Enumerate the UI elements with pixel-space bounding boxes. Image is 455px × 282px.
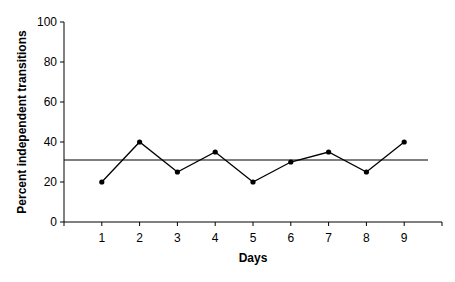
- data-point-marker: [402, 139, 407, 144]
- x-tick-label: 2: [136, 231, 143, 245]
- data-point-marker: [137, 139, 142, 144]
- data-point-marker: [326, 149, 331, 154]
- x-tick-label: 4: [212, 231, 219, 245]
- data-point-marker: [364, 169, 369, 174]
- data-point-marker: [250, 179, 255, 184]
- y-axis-title: Percent independent transitions: [15, 30, 29, 214]
- line-chart: 020406080100 123456789 Percent independe…: [0, 0, 455, 282]
- y-tick-label: 80: [44, 55, 58, 69]
- y-tick-label: 100: [37, 15, 57, 29]
- y-tick-label: 0: [50, 215, 57, 229]
- y-axis: 020406080100: [37, 15, 64, 229]
- x-tick-label: 9: [401, 231, 408, 245]
- y-tick-label: 60: [44, 95, 58, 109]
- x-tick-label: 6: [287, 231, 294, 245]
- data-point-marker: [288, 159, 293, 164]
- data-point-marker: [99, 179, 104, 184]
- x-tick-label: 1: [98, 231, 105, 245]
- data-point-marker: [213, 149, 218, 154]
- series-line: [102, 142, 404, 182]
- data-series: [99, 139, 407, 184]
- x-tick-label: 3: [174, 231, 181, 245]
- x-tick-label: 5: [250, 231, 257, 245]
- x-tick-label: 7: [325, 231, 332, 245]
- y-tick-label: 40: [44, 135, 58, 149]
- y-tick-label: 20: [44, 175, 58, 189]
- data-point-marker: [175, 169, 180, 174]
- x-axis-title: Days: [239, 251, 268, 265]
- x-tick-label: 8: [363, 231, 370, 245]
- x-axis: 123456789: [64, 222, 442, 245]
